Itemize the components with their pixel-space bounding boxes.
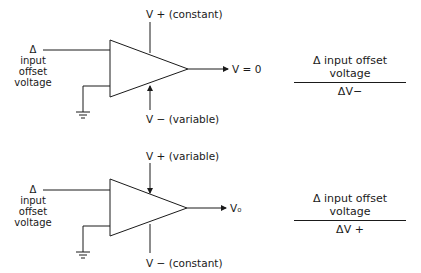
label-line: offset: [8, 206, 58, 217]
delta-symbol: Δ: [8, 184, 58, 195]
ratio-denominator: ΔV +: [294, 221, 406, 236]
v-minus-label: V − (variable): [146, 113, 219, 125]
ground-icon: [76, 252, 90, 258]
ratio-formula: Δ input offset voltage ΔV−: [294, 54, 406, 98]
ground-wire: [83, 86, 110, 112]
op-amp-top: [43, 22, 228, 118]
ground-wire: [83, 226, 110, 252]
ratio-numerator: Δ input offset voltage: [294, 192, 406, 221]
ground-icon: [76, 112, 90, 118]
label-line: voltage: [8, 77, 58, 88]
input-offset-label: Δ input offset voltage: [8, 184, 58, 228]
op-amp-bottom: [43, 163, 226, 258]
v-plus-label: V + (variable): [146, 150, 219, 162]
v-minus-label: V − (constant): [146, 257, 223, 269]
delta-symbol: Δ: [8, 44, 58, 55]
input-offset-label: Δ input offset voltage: [8, 44, 58, 88]
ratio-denominator: ΔV−: [294, 83, 406, 98]
label-line: offset: [8, 66, 58, 77]
output-label: V₀: [230, 202, 241, 214]
output-label: V = 0: [232, 63, 261, 75]
label-line: voltage: [8, 217, 58, 228]
ratio-formula: Δ input offset voltage ΔV +: [294, 192, 406, 236]
amplifier-triangle-icon: [110, 40, 188, 97]
label-line: input: [8, 195, 58, 206]
ratio-numerator: Δ input offset voltage: [294, 54, 406, 83]
label-line: input: [8, 55, 58, 66]
v-plus-label: V + (constant): [146, 8, 223, 20]
amplifier-triangle-icon: [110, 179, 187, 236]
